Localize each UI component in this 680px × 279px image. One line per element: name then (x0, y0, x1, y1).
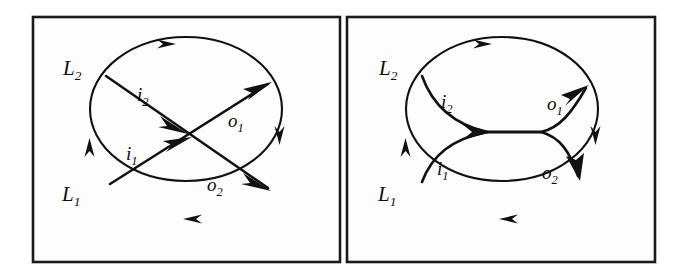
left-panel: L2 L1 i2 i1 o1 o2 (33, 17, 340, 262)
figure-canvas: L2 L1 i2 i1 o1 o2 (0, 0, 680, 279)
right-panel: L2 L1 i2 i1 o1 o2 (347, 17, 655, 262)
figure-svg: L2 L1 i2 i1 o1 o2 (0, 0, 680, 279)
right-panel-frame (347, 17, 655, 262)
